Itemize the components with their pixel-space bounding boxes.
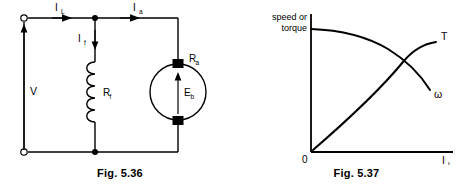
figure-5-36-panel: V I L I a I f R — [0, 0, 240, 191]
x-axis-label: I — [442, 155, 445, 165]
field-current-arrowhead — [92, 42, 99, 51]
figure-5-37-caption: Fig. 5.37 — [240, 167, 473, 179]
field-current-subscript: f — [84, 39, 86, 46]
supply-voltage-arrowhead — [21, 24, 28, 33]
armature-current-subscript: a — [139, 8, 143, 15]
line-current-arrowhead — [62, 14, 72, 22]
speed-torque-vs-load-current-chart: speed or torque 0 I L T ω — [240, 0, 473, 165]
y-axis-label-line1: speed or — [272, 12, 307, 22]
back-emf-arrowhead — [175, 72, 182, 81]
armature-current-label: I — [133, 2, 136, 13]
top-brush-icon — [173, 59, 184, 68]
field-resistance-subscript: f — [110, 93, 112, 100]
y-axis-label-line2: torque — [281, 23, 307, 33]
field-current-label: I — [78, 33, 81, 44]
field-winding-coil-icon — [87, 62, 95, 122]
figure-5-36-caption: Fig. 5.36 — [0, 167, 240, 179]
speed-curve-label: ω — [434, 88, 442, 100]
origin-label: 0 — [302, 154, 308, 165]
armature-resistance-subscript: a — [196, 59, 200, 66]
torque-curve-label: T — [441, 30, 448, 42]
figure-5-37-panel: speed or torque 0 I L T ω Fig. 5.37 — [240, 0, 473, 191]
figure-page: V I L I a I f R — [0, 0, 473, 191]
x-axis-label-subscript: L — [448, 161, 452, 166]
line-current-subscript: L — [61, 8, 65, 15]
speed-curve — [311, 29, 430, 90]
positive-terminal-icon — [21, 15, 27, 21]
shunt-motor-circuit-diagram: V I L I a I f R — [0, 0, 240, 165]
torque-curve — [313, 42, 436, 150]
line-current-label: I — [55, 2, 58, 13]
bottom-brush-icon — [173, 116, 184, 125]
armature-current-arrowhead — [130, 14, 140, 22]
supply-voltage-label: V — [30, 85, 37, 97]
back-emf-subscript: b — [191, 93, 195, 100]
